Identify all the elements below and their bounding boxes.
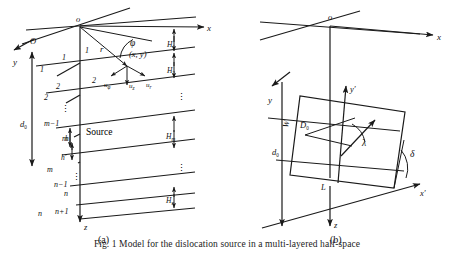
z-axis-b: z bbox=[330, 26, 338, 230]
interface-numbers: 1 2 m−1 m n−1 n bbox=[44, 53, 68, 198]
h-prime-label: h′ bbox=[61, 153, 67, 162]
h-label: h bbox=[65, 134, 69, 143]
layer-ellipsis-right-1: ⋮ bbox=[177, 92, 186, 102]
phi-label: φ bbox=[130, 38, 135, 48]
interface-number-n-1: n−1 bbox=[54, 180, 67, 189]
x-prime-axis: x′ bbox=[262, 184, 426, 228]
fault-reference-point-label: L bbox=[320, 182, 326, 192]
origin-label-a: o bbox=[76, 14, 80, 24]
layer-ellipsis-right-2: ⋮ bbox=[177, 163, 186, 173]
figure-caption: Fig. 1 Model for the dislocation source … bbox=[0, 238, 454, 257]
d0-label-a: d0 bbox=[20, 119, 27, 130]
layer-number-m: m bbox=[47, 165, 53, 174]
interface-number-1: 1 bbox=[62, 53, 66, 62]
displacement-vectors: uφ uz ur bbox=[104, 66, 153, 91]
origin-label-a-secondary: O bbox=[30, 36, 36, 46]
panel-a: x y o O z r φ (x, y) bbox=[12, 8, 211, 246]
dip-angle-label: δ bbox=[410, 149, 415, 159]
depth-d0-measure: d0 bbox=[20, 48, 32, 166]
layer-number-2: 2 bbox=[92, 76, 96, 85]
layer-ellipsis-left-2: ⋮ bbox=[72, 172, 81, 182]
source-label: Source bbox=[86, 127, 112, 137]
y-prime-axis: y′ bbox=[338, 84, 356, 183]
u-z-label: uz bbox=[129, 82, 135, 91]
z-axis-label-a: z bbox=[83, 222, 88, 232]
slip-vector: D0 λ bbox=[299, 118, 375, 156]
x-axis-label-a: x bbox=[206, 23, 211, 33]
x-axis-label-b: x bbox=[436, 32, 441, 42]
left-index-2: 2 bbox=[44, 93, 48, 102]
y-axis-label-a: y bbox=[12, 57, 17, 67]
y-axis-label-b: y bbox=[267, 95, 272, 105]
layer-ellipsis-left-1: ⋮ bbox=[61, 104, 70, 114]
left-index-1: 1 bbox=[40, 65, 44, 74]
layer-number-n: n bbox=[38, 209, 42, 218]
panel-b: o x y z d0 W bbox=[260, 11, 441, 246]
r-label: r bbox=[100, 44, 104, 54]
layer-number-n-plus-1: n+1 bbox=[55, 207, 68, 216]
interface-number-n: n bbox=[64, 189, 68, 198]
interface-number-2: 2 bbox=[56, 82, 60, 91]
layer-number-1: 1 bbox=[85, 46, 89, 55]
d0-label-b: d0 bbox=[272, 147, 279, 158]
rake-angle-label: λ bbox=[361, 138, 366, 148]
x-prime-label: x′ bbox=[419, 188, 426, 198]
Hn-label: Hn bbox=[165, 196, 174, 206]
figure-container: x y o O z r φ (x, y) bbox=[0, 0, 454, 257]
u-r-label: ur bbox=[146, 81, 153, 90]
y-prime-label: y′ bbox=[349, 84, 356, 94]
interface-number-m-1: m−1 bbox=[44, 119, 59, 128]
z-axis-label-b: z bbox=[333, 220, 338, 230]
depth-d0-measure-b: d0 bbox=[272, 82, 282, 226]
layer-thickness-measures: H1 H2 Hm Hn bbox=[165, 29, 175, 208]
y-axis-b: y bbox=[267, 72, 290, 105]
figure-svg: x y o O z r φ (x, y) bbox=[0, 0, 454, 257]
origin-label-b: o bbox=[328, 12, 332, 22]
fault-plane bbox=[290, 96, 405, 188]
